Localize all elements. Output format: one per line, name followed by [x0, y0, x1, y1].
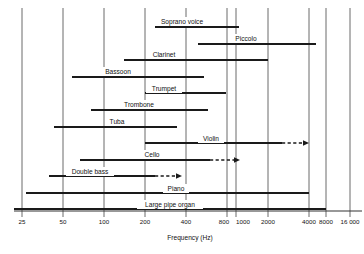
tick-label-200: 200: [140, 218, 151, 225]
bar-label-trombone: Trombone: [124, 101, 154, 108]
bar-label-clarinet: Clarinet: [153, 51, 176, 58]
x-axis-tick-labels: 25 50 100 200 400 800 1000 2000 4000 800…: [19, 218, 360, 225]
bar-labels: Soprano voice Piccolo Clarinet Bassoon T…: [66, 17, 262, 209]
bar-label-violin: Violin: [203, 135, 219, 142]
tick-label-8000: 8000: [319, 218, 333, 225]
tick-label-100: 100: [99, 218, 110, 225]
bar-label-bassoon: Bassoon: [105, 68, 131, 75]
tick-label-16000: 16 000: [341, 218, 360, 225]
tick-label-50: 50: [60, 218, 67, 225]
bar-label-tuba: Tuba: [110, 118, 125, 125]
bar-label-trumpet: Trumpet: [152, 85, 176, 93]
bar-label-piano: Piano: [168, 185, 185, 192]
arrow-head-icon: [176, 173, 182, 179]
x-axis-title: Frequency (Hz): [167, 234, 212, 242]
tick-label-25: 25: [19, 218, 26, 225]
arrow-head-icon: [234, 157, 240, 163]
bar-label-large-pipe-organ: Large pipe organ: [145, 201, 195, 209]
tick-label-1000: 1000: [236, 218, 250, 225]
bar-label-piccolo: Piccolo: [235, 35, 257, 42]
tick-label-4000: 4000: [302, 218, 316, 225]
arrow-head-icon: [303, 140, 309, 146]
bar-label-double-bass: Double bass: [72, 168, 109, 175]
tick-label-800: 800: [219, 218, 230, 225]
tick-label-400: 400: [181, 218, 192, 225]
bar-label-cello: Cello: [144, 151, 159, 158]
bar-label-soprano-voice: Soprano voice: [161, 18, 203, 26]
plot-area: Soprano voice Piccolo Clarinet Bassoon T…: [0, 0, 364, 254]
chart-canvas: Soprano voice Piccolo Clarinet Bassoon T…: [0, 0, 364, 254]
frequency-range-chart: Soprano voice Piccolo Clarinet Bassoon T…: [0, 0, 364, 254]
tick-label-2000: 2000: [261, 218, 275, 225]
